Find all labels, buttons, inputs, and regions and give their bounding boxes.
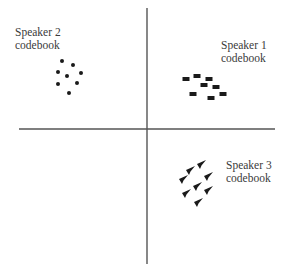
speaker-1-codebook-markers [183, 74, 227, 100]
speaker-3-codebook-markers [179, 160, 213, 207]
dot-marker [79, 71, 83, 75]
dot-marker [71, 63, 75, 67]
speaker-3-label-line2: codebook [226, 172, 271, 184]
rectangle-marker [208, 96, 215, 100]
diagram-svg: Speaker 1 codebook Speaker 2 codebook Sp… [0, 0, 288, 276]
triangle-marker [193, 182, 202, 191]
dot-marker [56, 70, 60, 74]
rectangle-marker [194, 74, 201, 78]
dot-marker [60, 59, 64, 63]
triangle-marker [194, 198, 203, 207]
dot-marker [75, 81, 79, 85]
speaker-2-label-line1: Speaker 2 [15, 26, 61, 39]
triangle-marker [179, 175, 188, 184]
triangle-marker [186, 166, 195, 175]
rectangle-marker [206, 77, 213, 81]
speaker-3-label-line1: Speaker 3 [226, 159, 272, 172]
rectangle-marker [213, 85, 220, 89]
rectangle-marker [201, 83, 208, 87]
triangle-marker [204, 172, 213, 181]
rectangle-marker [220, 92, 227, 96]
dot-marker [65, 74, 69, 78]
codebook-diagram: Speaker 1 codebook Speaker 2 codebook Sp… [0, 0, 288, 276]
speaker-1-label-line2: codebook [221, 52, 266, 64]
speaker-2-codebook-markers [56, 59, 83, 95]
speaker-1-label-line1: Speaker 1 [221, 39, 267, 52]
rectangle-marker [190, 92, 197, 96]
triangle-marker [204, 186, 213, 195]
speaker-2-label-line2: codebook [15, 39, 60, 51]
dot-marker [56, 82, 60, 86]
triangle-marker [182, 189, 191, 198]
rectangle-marker [183, 77, 190, 81]
triangle-marker [197, 160, 206, 169]
dot-marker [67, 91, 71, 95]
